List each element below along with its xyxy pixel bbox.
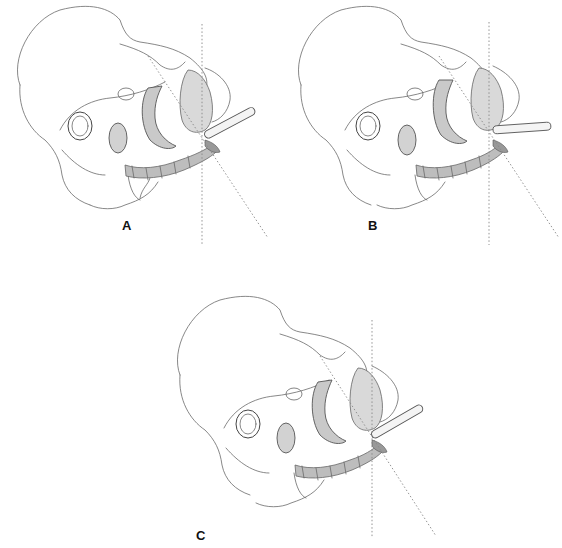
rod-probe [493,122,551,134]
panel-label-b: B [368,218,377,233]
pelvis-illustration-c [160,290,450,548]
panel-label-a: A [122,218,131,233]
panel-b [281,0,562,250]
pelvis-illustration-b [281,0,562,250]
pelvis-drawing [298,6,519,208]
panel-c [160,290,450,548]
panel-a [0,0,281,250]
pelvis-illustration-a [0,0,281,250]
pelvis-drawing [177,296,398,506]
pelvis-drawing [17,6,230,208]
panel-label-c: C [196,528,205,543]
